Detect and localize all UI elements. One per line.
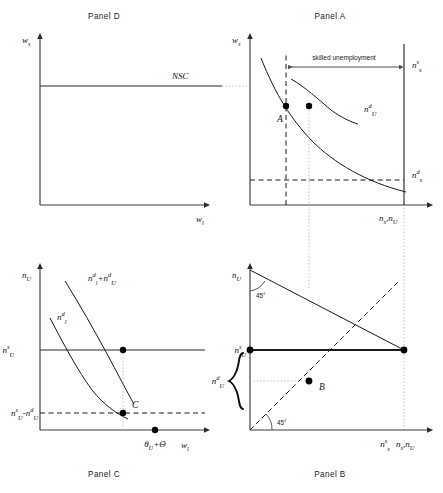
panel-b-top-angle-label: 45° — [256, 292, 266, 299]
canvas-background — [0, 0, 443, 493]
panel-c-title: Panel C — [88, 470, 120, 479]
panel-b-right-intersection-dot — [401, 347, 408, 354]
panel-a-title: Panel A — [314, 12, 345, 21]
panel-a-point-a-dot — [283, 103, 289, 109]
panel-a-point-secondary-dot — [306, 103, 312, 109]
panel-c-point-c-label: C — [132, 400, 139, 410]
panel-c-point-c-dot — [120, 410, 126, 416]
panel-a-span-label: skilled unemployment — [312, 54, 376, 62]
panel-b-title: Panel B — [314, 470, 346, 479]
panel-c-x-tick-dot — [152, 427, 158, 433]
panel-a-point-a-label: A — [276, 114, 283, 124]
panel-b-point-b-label: B — [319, 382, 325, 392]
panel-c-upper-intersection-dot — [120, 347, 126, 353]
panel-c-x-tick-label: θU+Θ — [144, 439, 166, 451]
panel-b-origin-supply-dot — [247, 347, 254, 354]
panel-d-nsc-label: NSC — [171, 71, 190, 81]
svg-text:θU+Θ: θU+Θ — [144, 439, 166, 451]
panel-b-bottom-angle-label: 45° — [277, 419, 287, 426]
panel-b-point-b-dot — [306, 378, 313, 385]
panel-d-title: Panel D — [88, 12, 120, 21]
economics-four-panel-diagram: Panel D ws wl NSC Panel A ws — [0, 0, 443, 493]
